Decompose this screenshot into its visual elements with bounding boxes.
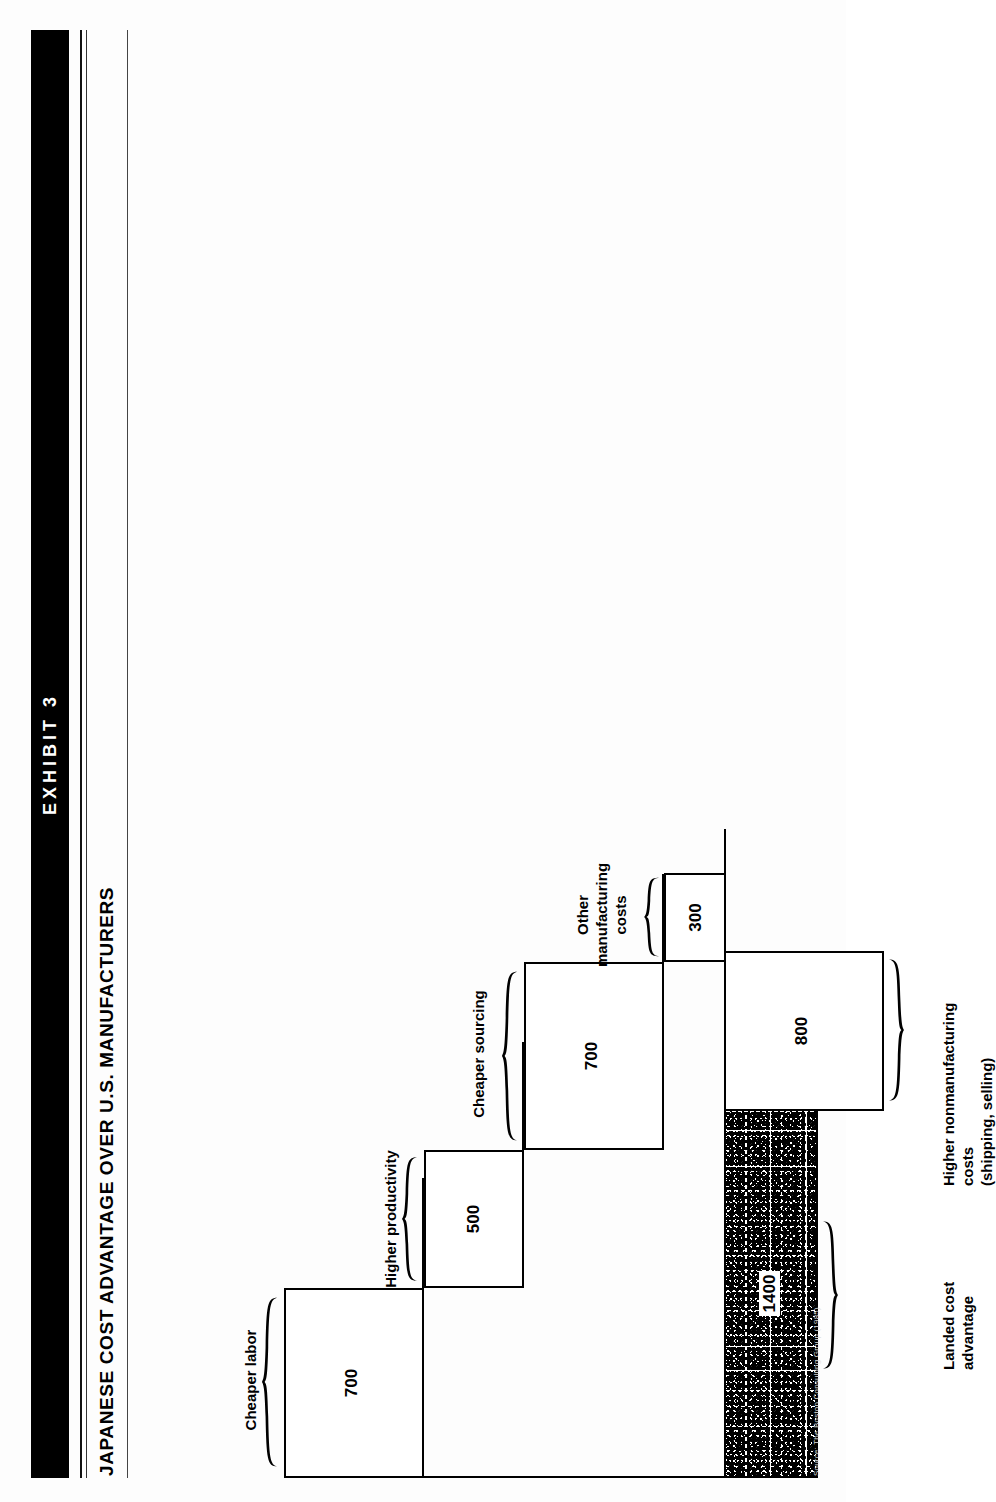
bar-higher-nonmanufacturing-costs: 800 (724, 951, 884, 1111)
header-rule-thin (86, 30, 87, 1478)
bar-value-cheaper-sourcing: 700 (582, 964, 602, 1148)
callout-landed-cost-advantage: Landed cost advantage (920, 1170, 977, 1370)
callout-other-manufacturing-costs: Other manufacturing costs (554, 850, 630, 980)
brace-higher-nonmanufacturing-costs (888, 958, 904, 1102)
callout-cheaper-sourcing: Cheaper sourcing (450, 970, 488, 1138)
bar-cheaper-sourcing: 700 (524, 962, 664, 1150)
bar-landed-cost-advantage: 1400 (724, 1109, 818, 1478)
bar-other-manufacturing-costs: 300 (664, 873, 726, 962)
callout-cheaper-labor: Cheaper labor (222, 1300, 260, 1460)
brace-higher-productivity (402, 1156, 418, 1282)
callout-higher-productivity: Higher productivity (362, 1149, 400, 1289)
exhibit-number-label: EXHIBIT 3 (31, 30, 69, 1478)
callout-higher-nonmanufacturing-costs: Higher nonmanufacturing costs (shipping,… (920, 856, 996, 1186)
brace-other-manufacturing-costs (644, 877, 660, 957)
bar-value-landed-cost-advantage: 1400 (760, 1111, 780, 1476)
header-rule-thick (80, 30, 82, 1478)
page-title: JAPANESE COST ADVANTAGE OVER U.S. MANUFA… (96, 887, 118, 1476)
brace-landed-cost-advantage (822, 1220, 838, 1370)
bar-value-higher-productivity: 500 (464, 1152, 484, 1286)
bar-higher-productivity: 500 (424, 1150, 524, 1288)
brace-cheaper-labor (262, 1296, 278, 1468)
left-spine (422, 1476, 726, 1478)
waterfall-chart: 700 Cheaper labor 500 Higher productivit… (150, 30, 790, 1478)
bar-value-other-manufacturing-costs: 300 (686, 875, 706, 960)
bar-value-higher-nonmanufacturing-costs: 800 (792, 953, 812, 1109)
brace-cheaper-sourcing (502, 970, 518, 1142)
source-note: Source: The Boston Consulting Group (198… (812, 1307, 821, 1476)
bar-value-cheaper-labor: 700 (342, 1290, 362, 1476)
bar-cheaper-labor: 700 (284, 1288, 424, 1478)
title-underline-rule (127, 30, 128, 1478)
baseline-right (724, 829, 726, 875)
